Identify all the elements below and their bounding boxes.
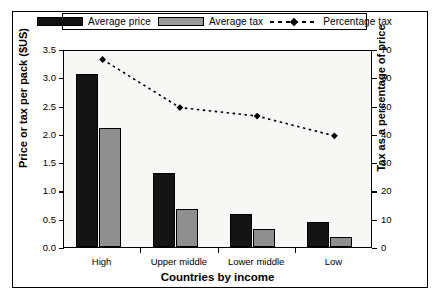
x-axis-tick-mark [218,248,219,253]
gray-bar-swatch-icon [158,17,204,26]
y-axis-right-label: Tax as a percentage of price [375,3,387,193]
percentage-tax-data-point [254,113,261,120]
y-axis-right-tick-label: 0 [381,242,405,253]
y-axis-left-tick-label: 3.0 [26,72,56,83]
dotted-line-diamond-marker-icon [270,17,318,26]
percentage-tax-data-point [176,104,183,111]
x-axis-tick-mark [295,248,296,253]
legend-item-average-price: Average price [37,16,151,27]
y-axis-left-tick-label: 1.5 [26,157,56,168]
x-axis-tick-label: Low [283,256,383,267]
y-axis-left-tick-label: 2.0 [26,129,56,140]
legend-item-percentage-tax: Percentage tax [270,16,392,27]
y-axis-left-tick-label: 2.5 [26,101,56,112]
y-axis-right-tick-label: 10 [381,214,405,225]
y-axis-left-label: Price or tax per pack ($US) [17,3,29,193]
percentage-tax-data-point [99,56,106,63]
y-axis-left-tick-label: 0.0 [26,242,56,253]
legend-label-average-tax: Average tax [209,16,263,27]
x-axis-label: Countries by income [63,271,372,283]
x-axis-tick-mark [140,248,141,253]
plot-area [63,50,372,248]
y-axis-left-tick-label: 1.0 [26,185,56,196]
legend-label-average-price: Average price [88,16,151,27]
black-bar-swatch-icon [37,17,83,26]
y-axis-left-tick-label: 0.5 [26,214,56,225]
percentage-tax-line [64,51,373,249]
chart-figure: Average price Average tax Percentage tax… [0,0,442,301]
percentage-tax-data-point [331,132,338,139]
legend-item-average-tax: Average tax [158,16,263,27]
y-axis-left-tick-label: 3.5 [26,44,56,55]
chart-legend: Average price Average tax Percentage tax [62,13,367,30]
